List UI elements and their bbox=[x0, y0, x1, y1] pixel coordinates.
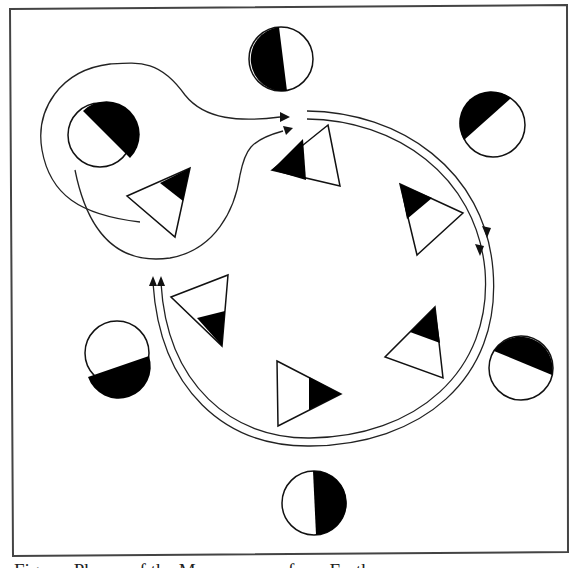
loop-path bbox=[41, 63, 283, 259]
arrow-icon bbox=[149, 276, 157, 286]
moon-shadow bbox=[313, 471, 347, 535]
moon-right bbox=[489, 336, 553, 400]
moon-top bbox=[249, 27, 313, 91]
moon-left bbox=[85, 321, 151, 399]
triangle-left bbox=[171, 275, 228, 346]
arrow-icon bbox=[157, 276, 165, 286]
moon-upper-left bbox=[68, 101, 140, 167]
moon-top-right bbox=[459, 91, 525, 157]
triangle-upper-left bbox=[127, 168, 190, 237]
figure-caption: Figure: Phases of the Moon as seen from … bbox=[14, 558, 574, 568]
moon-phase-diagram bbox=[0, 0, 588, 568]
arrow-icon bbox=[280, 112, 290, 122]
triangle-top bbox=[272, 125, 340, 186]
triangle-upper-right bbox=[400, 184, 463, 255]
triangle-bottom bbox=[277, 361, 341, 426]
triangle-right bbox=[385, 307, 443, 378]
moon-bottom bbox=[282, 471, 347, 535]
arrow-icon bbox=[283, 126, 293, 135]
arrow-icon bbox=[482, 226, 491, 238]
